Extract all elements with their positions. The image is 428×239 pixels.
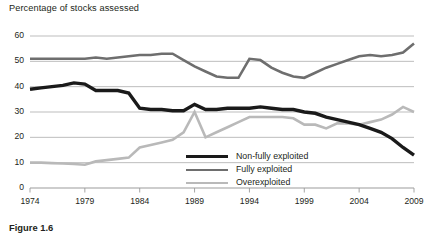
chart-legend: Non-fully exploitedFully exploitedOverex… [186, 150, 346, 189]
y-tick-label: 40 [2, 81, 24, 91]
y-tick-label: 0 [2, 182, 24, 192]
legend-label: Fully exploited [236, 163, 292, 176]
y-tick-label: 60 [2, 30, 24, 40]
series-line-fully-exploited [30, 44, 414, 78]
x-tick-label: 1999 [284, 196, 324, 206]
y-tick-label: 20 [2, 131, 24, 141]
legend-label: Overexploited [236, 176, 290, 189]
legend-swatch-icon [186, 155, 228, 158]
x-tick-label: 2009 [394, 196, 428, 206]
x-tick-label: 2004 [339, 196, 379, 206]
y-tick-label: 30 [2, 106, 24, 116]
legend-item: Overexploited [186, 176, 346, 189]
x-tick-label: 1974 [10, 196, 50, 206]
legend-swatch-icon [186, 182, 228, 184]
legend-item: Fully exploited [186, 163, 346, 176]
legend-label: Non-fully exploited [236, 150, 308, 163]
x-tick-label: 1979 [65, 196, 105, 206]
legend-swatch-icon [186, 169, 228, 171]
legend-item: Non-fully exploited [186, 150, 346, 163]
x-tick-label: 1984 [120, 196, 160, 206]
figure-caption: Figure 1.6 [9, 222, 53, 233]
y-tick-label: 50 [2, 55, 24, 65]
x-tick-label: 1994 [229, 196, 269, 206]
series-line-non-fully-exploited [30, 83, 414, 155]
chart-title: Percentage of stocks assessed [9, 3, 139, 13]
x-tick-label: 1989 [175, 196, 215, 206]
y-tick-label: 10 [2, 157, 24, 167]
x-axis-tick-labels: 19741979198419891994199920042009 [0, 196, 423, 212]
